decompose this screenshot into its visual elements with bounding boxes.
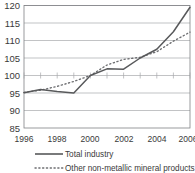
y-tick-label: 100	[4, 70, 20, 81]
y-tick-label: 115	[5, 18, 20, 29]
y-tick-label: 120	[4, 0, 20, 11]
x-tick-label: 1996	[15, 134, 34, 144]
chart-legend: Total industry Other non-metallic minera…	[35, 150, 195, 173]
x-tick-label: 1998	[48, 134, 67, 144]
x-tick-label: 2006	[179, 134, 195, 144]
x-tick-label: 2004	[148, 134, 167, 144]
line-chart-figure: 120 115 110 105 100 95 90 85 1996 1998 2…	[0, 0, 195, 173]
gridlines	[24, 6, 190, 111]
legend-label-other-non-metallic-mineral-products: Other non-metallic mineral products	[65, 164, 195, 173]
x-tick-label: 2000	[81, 134, 100, 144]
series-line-total-industry	[24, 7, 190, 93]
y-axis-tick-labels: 120 115 110 105 100 95 90 85	[4, 0, 20, 134]
y-tick-label: 105	[4, 53, 20, 64]
y-tick-label: 95	[9, 88, 20, 99]
plot-area-frame	[24, 6, 190, 129]
legend-label-total-industry: Total industry	[65, 150, 114, 159]
y-tick-label: 85	[9, 123, 20, 134]
chart-canvas: 120 115 110 105 100 95 90 85 1996 1998 2…	[0, 0, 195, 173]
x-axis-tick-labels: 1996 1998 2000 2002 2004 2006	[15, 134, 195, 144]
x-tick-label: 2002	[115, 134, 134, 144]
y-tick-label: 90	[9, 105, 20, 116]
y-tick-label: 110	[5, 35, 20, 46]
